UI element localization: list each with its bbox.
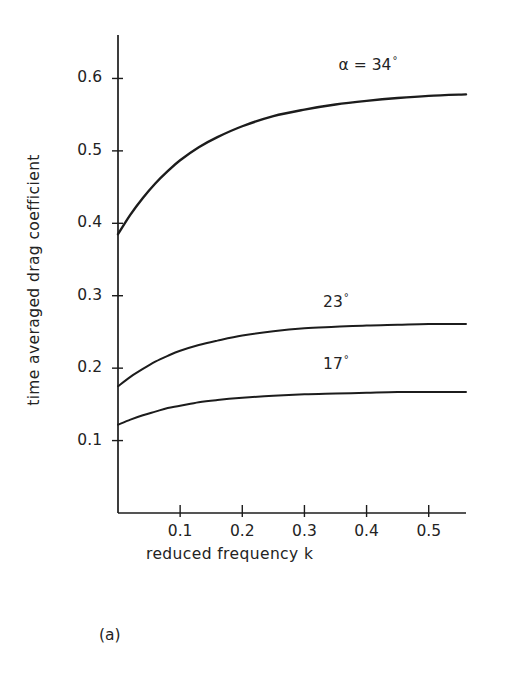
series-label-text: 23	[323, 293, 343, 311]
x-axis-tick-label: 0.5	[409, 522, 449, 540]
degree-symbol-icon: °	[344, 292, 349, 303]
y-axis-tick-label: 0.5	[50, 141, 102, 159]
degree-symbol-icon: °	[392, 55, 397, 66]
figure-panel: time averaged drag coefficient reduced f…	[0, 0, 524, 691]
chart-canvas	[0, 0, 524, 691]
y-axis-tick-label: 0.6	[50, 68, 102, 86]
x-axis-ticks	[180, 505, 429, 517]
series-curve	[118, 94, 466, 234]
y-axis-tick-label: 0.3	[50, 286, 102, 304]
x-axis-tick-label: 0.4	[347, 522, 387, 540]
series-label: 17°	[323, 354, 349, 373]
y-axis-title: time averaged drag coefficient	[14, 110, 54, 450]
series-curve	[118, 392, 466, 425]
series-label-text: α = 34	[339, 56, 392, 74]
figure-caption: (a)	[99, 626, 121, 644]
chart-series-group	[118, 94, 466, 424]
y-axis-tick-label: 0.4	[50, 213, 102, 231]
y-axis-tick-label: 0.2	[50, 358, 102, 376]
x-axis-tick-label: 0.1	[160, 522, 200, 540]
series-label: α = 34°	[339, 55, 398, 74]
x-axis-tick-label: 0.3	[284, 522, 324, 540]
y-axis-tick-label: 0.1	[50, 431, 102, 449]
series-label: 23°	[323, 292, 349, 311]
x-axis-title: reduced frequency k	[146, 545, 313, 563]
x-axis-tick-label: 0.2	[222, 522, 262, 540]
y-axis-title-text: time averaged drag coefficient	[25, 154, 43, 406]
series-label-text: 17	[323, 355, 343, 373]
series-curve	[118, 324, 466, 386]
degree-symbol-icon: °	[344, 354, 349, 365]
